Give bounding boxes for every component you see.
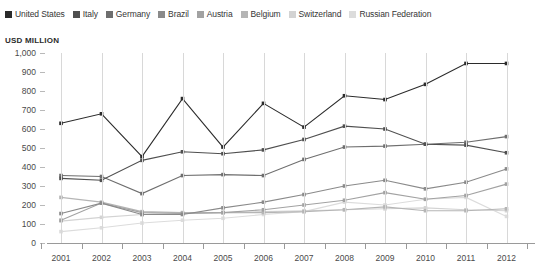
x-axis-tick-label: 2010	[416, 253, 435, 263]
x-axis-tick-label: 2002	[92, 253, 111, 263]
y-axis-tick-label: 600	[22, 124, 36, 134]
legend-swatch-icon	[73, 11, 80, 18]
x-axis-tick	[365, 243, 366, 249]
y-axis-tick	[40, 167, 45, 168]
legend-item[interactable]: Austria	[197, 10, 233, 19]
legend-item[interactable]: Belgium	[241, 10, 281, 19]
y-axis-tick-label: 800	[22, 86, 36, 96]
y-axis-tick-label: 700	[22, 105, 36, 115]
legend-label: United States	[15, 10, 65, 19]
legend-label: Brazil	[168, 10, 189, 19]
gridline-vertical	[264, 53, 265, 243]
plot-area: 1,0009008007006005004003002001000 200120…	[0, 46, 542, 266]
x-axis-tick-label: 2008	[335, 253, 354, 263]
gridline-vertical	[223, 53, 224, 243]
x-axis-tick	[122, 243, 123, 249]
legend-item[interactable]: Russian Federation	[349, 10, 431, 19]
y-axis-line	[47, 53, 48, 243]
legend-label: Germany	[116, 10, 150, 19]
x-axis-tick	[82, 243, 83, 249]
y-axis-tick-label: 100	[22, 219, 36, 229]
legend-item[interactable]: Italy	[73, 10, 98, 19]
legend-swatch-icon	[158, 11, 165, 18]
series-line	[61, 126, 507, 180]
y-axis-tick-label: 0	[31, 238, 36, 248]
series-line	[61, 208, 507, 221]
y-axis-tick-label: 200	[22, 200, 36, 210]
legend-item[interactable]: Switzerland	[289, 10, 342, 19]
series-line	[61, 184, 507, 220]
y-axis-title: USD MILLION	[5, 36, 59, 45]
legend-item[interactable]: Brazil	[158, 10, 189, 19]
x-axis-tick-label: 2005	[214, 253, 233, 263]
gridline-vertical	[466, 53, 467, 243]
legend-label: Italy	[83, 10, 98, 19]
legend-swatch-icon	[106, 11, 113, 18]
y-axis-tick	[40, 205, 45, 206]
legend-label: Belgium	[251, 10, 281, 19]
x-axis-tick	[244, 243, 245, 249]
legend-label: Switzerland	[299, 10, 342, 19]
y-axis-tick-label: 900	[22, 67, 36, 77]
gridline-vertical	[385, 53, 386, 243]
legend-swatch-icon	[241, 11, 248, 18]
y-axis-tick	[40, 91, 45, 92]
y-axis-tick	[40, 224, 45, 225]
y-axis-tick	[40, 53, 45, 54]
x-axis-tick-label: 2001	[52, 253, 71, 263]
x-axis-tick-label: 2004	[173, 253, 192, 263]
data-series	[59, 124, 508, 182]
x-axis-tick	[446, 243, 447, 249]
y-axis-tick	[40, 129, 45, 130]
x-axis-tick-label: 2009	[376, 253, 395, 263]
series-svg	[47, 53, 535, 243]
x-axis-tick	[163, 243, 164, 249]
legend-label: Russian Federation	[359, 10, 431, 19]
y-axis-tick-label: 1,000	[15, 48, 36, 58]
x-axis-tick	[325, 243, 326, 249]
x-axis-line	[47, 243, 535, 244]
y-axis-tick	[40, 110, 45, 111]
gridline-vertical	[142, 53, 143, 243]
legend-swatch-icon	[197, 11, 204, 18]
top-edge-rule	[0, 0, 542, 2]
gridline-vertical	[304, 53, 305, 243]
gridline-vertical	[183, 53, 184, 243]
chart-legend: United StatesItalyGermanyBrazilAustriaBe…	[5, 8, 439, 21]
gridline-vertical	[426, 53, 427, 243]
x-axis-tick-label: 2006	[254, 253, 273, 263]
x-axis-tick	[284, 243, 285, 249]
gridline-vertical	[102, 53, 103, 243]
gridline-vertical	[61, 53, 62, 243]
gridline-vertical	[345, 53, 346, 243]
y-axis-tick-label: 300	[22, 181, 36, 191]
y-axis-tick	[40, 148, 45, 149]
data-series	[59, 196, 508, 234]
x-axis-tick-label: 2011	[457, 253, 475, 263]
x-axis-tick	[203, 243, 204, 249]
legend-swatch-icon	[349, 11, 356, 18]
x-axis-tick-label: 2012	[497, 253, 516, 263]
gridline-vertical	[507, 53, 508, 243]
y-axis-tick	[40, 72, 45, 73]
legend-swatch-icon	[5, 11, 12, 18]
legend-label: Austria	[207, 10, 233, 19]
x-axis-tick-label: 2003	[133, 253, 152, 263]
y-axis-tick-label: 500	[22, 143, 36, 153]
x-axis-tick	[406, 243, 407, 249]
x-axis-tick	[527, 243, 528, 249]
x-axis-tick	[487, 243, 488, 249]
x-axis-tick-label: 2007	[295, 253, 314, 263]
legend-swatch-icon	[289, 11, 296, 18]
y-axis-tick	[40, 186, 45, 187]
y-axis-labels: 1,0009008007006005004003002001000	[0, 46, 44, 250]
x-axis-tick	[41, 243, 42, 249]
series-line	[61, 197, 507, 231]
series-line	[61, 63, 507, 156]
series-canvas	[47, 53, 535, 243]
legend-item[interactable]: United States	[5, 10, 65, 19]
y-axis-tick-label: 400	[22, 162, 36, 172]
legend-item[interactable]: Germany	[106, 10, 150, 19]
